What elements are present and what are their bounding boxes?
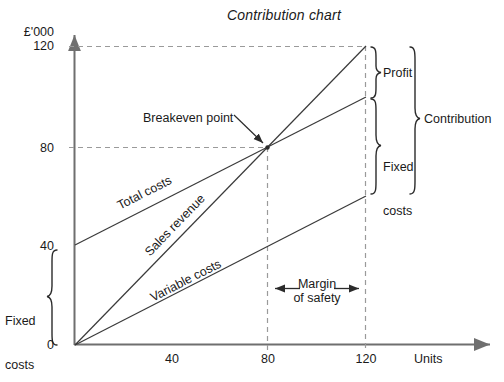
x-tick-120: 120	[341, 352, 391, 366]
margin-of-safety-line1: Margin	[274, 277, 360, 291]
fixed-costs-left-line1: Fixed	[5, 314, 36, 329]
fixed-costs-right-label: Fixed costs	[383, 131, 414, 247]
fixed-costs-left-line2: costs	[5, 358, 36, 373]
margin-of-safety-label: Margin of safety	[274, 277, 360, 305]
x-axis-unit-label: Units	[414, 352, 442, 366]
x-tick-40: 40	[147, 352, 197, 366]
profit-label: Profit	[383, 66, 412, 80]
y-tick-80: 80	[8, 141, 54, 155]
brace-profit	[371, 47, 381, 98]
y-axis-unit-label: £'000	[8, 25, 54, 39]
y-tick-120: 120	[8, 39, 54, 53]
chart-canvas	[0, 0, 504, 382]
fixed-costs-right-line2: costs	[383, 204, 414, 219]
fixed-costs-left-label: Fixed costs	[5, 285, 36, 382]
breakeven-callout-arrow	[234, 115, 270, 150]
brace-fixed-costs-left	[47, 250, 57, 345]
x-tick-80: 80	[243, 352, 293, 366]
y-tick-40: 40	[8, 239, 54, 253]
breakeven-point-label: Breakeven point	[143, 111, 233, 125]
margin-of-safety-line2: of safety	[274, 291, 360, 305]
contribution-label: Contribution	[424, 112, 491, 126]
brace-fixed-costs-right	[371, 99, 381, 194]
fixed-costs-right-line1: Fixed	[383, 160, 414, 175]
contribution-chart: Contribution chart	[0, 0, 504, 382]
